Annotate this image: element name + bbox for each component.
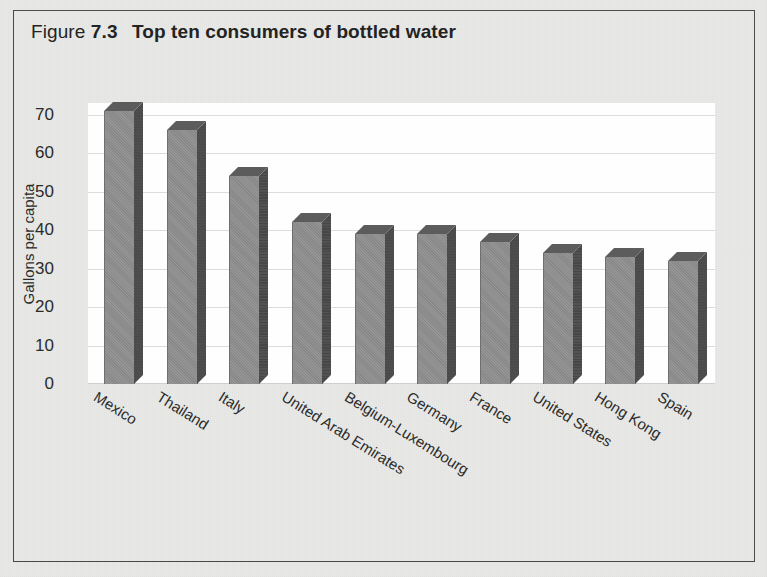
- plot-area: [88, 103, 715, 384]
- y-axis-tick-label: 20: [35, 297, 54, 317]
- bar-column: [167, 130, 197, 384]
- bar-column: [355, 234, 385, 384]
- x-axis-tick-label: Thailand: [154, 388, 212, 433]
- bar-front-face: [605, 257, 636, 384]
- bar-column: [104, 111, 134, 384]
- gridline: [88, 115, 715, 116]
- bar-front-face: [480, 242, 511, 384]
- bar-front-face: [167, 130, 198, 384]
- figure-title: Figure 7.3 Top ten consumers of bottled …: [31, 21, 456, 43]
- x-axis-tick-label: Italy: [216, 388, 248, 417]
- bar-side-face: [447, 225, 456, 384]
- bar-front-face: [229, 176, 260, 384]
- bar-column: [292, 222, 322, 384]
- y-axis-tick-label: 0: [45, 374, 54, 394]
- bar-front-face: [543, 253, 574, 384]
- y-axis-tick-label: 50: [35, 182, 54, 202]
- x-axis-tick-label: Spain: [655, 388, 697, 423]
- x-axis-tick-label: France: [467, 388, 516, 427]
- bar-front-face: [104, 111, 135, 384]
- bar-side-face: [698, 252, 707, 384]
- figure-label: Figure: [31, 21, 85, 42]
- y-axis-title: Gallons per capita: [20, 144, 37, 344]
- x-axis-tick-label: Mexico: [91, 388, 140, 428]
- y-axis-tick-label: 30: [35, 259, 54, 279]
- bar-front-face: [292, 222, 323, 384]
- bar-side-face: [134, 102, 143, 384]
- bar-side-face: [197, 121, 206, 384]
- figure-title-text: Top ten consumers of bottled water: [132, 21, 456, 42]
- bar-front-face: [417, 234, 448, 384]
- bar-side-face: [635, 248, 644, 384]
- bar-side-face: [573, 244, 582, 384]
- bar-side-face: [510, 233, 519, 384]
- bar-column: [605, 257, 635, 384]
- figure-number: 7.3: [91, 21, 118, 42]
- bar-side-face: [385, 225, 394, 384]
- bar-column: [480, 242, 510, 384]
- y-axis-tick-label: 10: [35, 336, 54, 356]
- bar-column: [543, 253, 573, 384]
- bar-column: [417, 234, 447, 384]
- bar-side-face: [259, 167, 268, 384]
- bar-front-face: [668, 261, 699, 384]
- bar-side-face: [322, 213, 331, 384]
- x-axis-labels: MexicoThailandItalyUnited Arab EmiratesB…: [88, 388, 715, 498]
- y-axis-tick-label: 70: [35, 105, 54, 125]
- y-axis-tick-label: 60: [35, 143, 54, 163]
- bar-front-face: [355, 234, 386, 384]
- bar-column: [229, 176, 259, 384]
- y-axis: Gallons per capita 010203040506070: [0, 103, 88, 384]
- y-axis-tick-label: 40: [35, 220, 54, 240]
- bar-column: [668, 261, 698, 384]
